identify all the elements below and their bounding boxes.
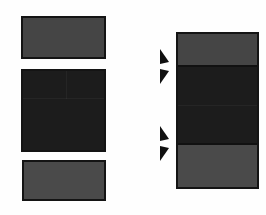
component-seam-vertical: [66, 71, 67, 99]
stack-band-bottom: [178, 145, 257, 187]
exploded-component-middle: [21, 69, 106, 152]
double-arrowhead-icon-top: [157, 47, 173, 87]
exploded-component-top: [21, 16, 106, 59]
stack-band-middle: [178, 67, 257, 145]
assembled-stack: [176, 32, 259, 189]
component-seam-horizontal: [23, 98, 104, 99]
exploded-component-bottom: [22, 160, 106, 201]
double-arrowhead-glyph: [157, 124, 173, 164]
double-arrowhead-glyph: [157, 47, 173, 87]
stack-seam-horizontal: [178, 105, 257, 106]
diagram-canvas: [0, 0, 266, 215]
double-arrowhead-icon-bottom: [157, 124, 173, 164]
stack-band-top: [178, 34, 257, 67]
